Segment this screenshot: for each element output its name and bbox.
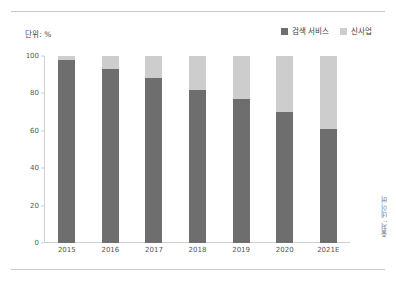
bar-slot (176, 56, 220, 243)
y-tick-label: 100 (26, 52, 39, 60)
y-tick-mark (41, 93, 44, 94)
x-axis-labels: 2015201620172018201920202021E (45, 246, 350, 254)
chart-figure: 단위: % 검색 서비스 신사업 020406080100 2015201620… (0, 0, 396, 281)
y-tick-mark (41, 168, 44, 169)
chart-legend: 검색 서비스 신사업 (281, 28, 372, 36)
legend-item-search-service[interactable]: 검색 서비스 (281, 28, 329, 36)
stacked-bar[interactable] (320, 56, 337, 243)
y-tick-label: 40 (30, 164, 39, 172)
y-tick-mark (41, 205, 44, 206)
legend-swatch-new-business (340, 28, 347, 35)
legend-item-new-business[interactable]: 신사업 (340, 28, 372, 36)
bar-segment-search-service[interactable] (102, 69, 119, 243)
stacked-bar[interactable] (102, 56, 119, 243)
bar-segment-search-service[interactable] (276, 112, 293, 243)
y-tick-mark (41, 56, 44, 57)
bar-segment-new-business[interactable] (320, 56, 337, 129)
stacked-bar[interactable] (276, 56, 293, 243)
card-bottom-rule (11, 269, 385, 270)
bar-segment-new-business[interactable] (145, 56, 162, 78)
bar-segment-new-business[interactable] (233, 56, 250, 99)
y-tick-label: 20 (30, 202, 39, 210)
bar-segment-search-service[interactable] (320, 129, 337, 243)
source-note: 출처: 네이버 (380, 196, 390, 237)
x-tick-label: 2016 (89, 246, 133, 254)
y-tick-label: 0 (35, 239, 39, 247)
plot-area: 020406080100 (44, 56, 350, 243)
x-tick-label: 2020 (263, 246, 307, 254)
stacked-bar[interactable] (145, 56, 162, 243)
x-tick-label: 2015 (45, 246, 89, 254)
stacked-bar[interactable] (189, 56, 206, 243)
x-tick-label: 2021E (306, 246, 350, 254)
bar-segment-new-business[interactable] (102, 56, 119, 69)
y-tick-label: 60 (30, 127, 39, 135)
y-tick-mark (41, 130, 44, 131)
legend-swatch-search-service (281, 28, 288, 35)
card-top-rule (11, 11, 385, 12)
unit-label: 단위: % (25, 28, 52, 39)
y-tick-label: 80 (30, 89, 39, 97)
bar-segment-new-business[interactable] (276, 56, 293, 112)
bar-slot (306, 56, 350, 243)
bar-group (45, 56, 350, 243)
stacked-bar[interactable] (58, 56, 75, 243)
bar-slot (263, 56, 307, 243)
bar-slot (89, 56, 133, 243)
bar-segment-new-business[interactable] (189, 56, 206, 90)
x-tick-label: 2017 (132, 246, 176, 254)
legend-label-search-service: 검색 서비스 (292, 28, 329, 36)
bar-segment-search-service[interactable] (145, 78, 162, 243)
bar-segment-search-service[interactable] (233, 99, 250, 243)
y-tick-mark (41, 243, 44, 244)
stacked-bar[interactable] (233, 56, 250, 243)
bar-slot (219, 56, 263, 243)
legend-label-new-business: 신사업 (351, 28, 372, 36)
bar-slot (132, 56, 176, 243)
x-tick-label: 2019 (219, 246, 263, 254)
x-tick-label: 2018 (176, 246, 220, 254)
bar-segment-search-service[interactable] (58, 60, 75, 243)
bar-slot (45, 56, 89, 243)
bar-segment-search-service[interactable] (189, 90, 206, 243)
